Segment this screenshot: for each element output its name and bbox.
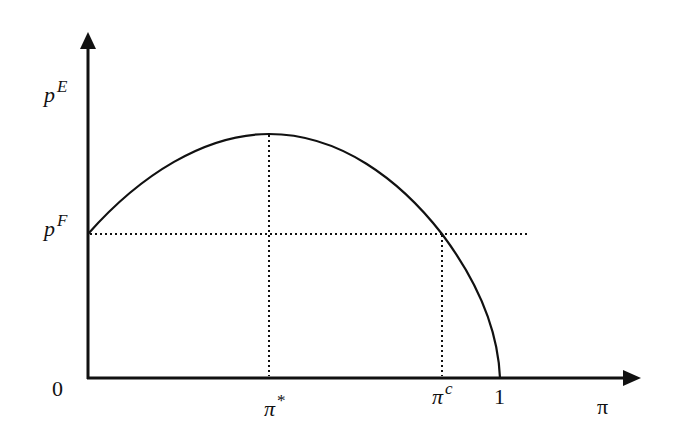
one-tick-label: 1 — [494, 386, 505, 408]
pE-curve — [88, 134, 500, 378]
diagram-canvas — [0, 0, 676, 444]
x-axis-label: π — [597, 396, 608, 418]
pi-star-tick-label: π* — [264, 398, 286, 420]
y-axis-arrow-icon — [80, 32, 96, 49]
x-axis-arrow-icon — [623, 370, 641, 386]
origin-label: 0 — [52, 378, 63, 400]
y-axis-label: pE — [44, 84, 67, 106]
pi-c-tick-label: πc — [432, 386, 453, 408]
pF-tick-label: pF — [44, 218, 67, 240]
